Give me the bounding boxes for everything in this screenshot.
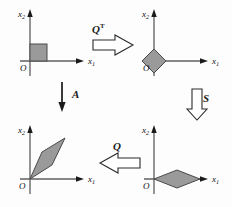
x-axis-arrowhead <box>76 58 84 63</box>
scaled-flat-rhombus-shape <box>154 170 200 188</box>
arrow-q-label: Q <box>113 140 121 152</box>
x2-axis-label: x2 <box>141 9 149 20</box>
arrow-a-label: A <box>72 88 79 100</box>
sheared-parallelogram-shape <box>30 138 65 179</box>
x1-axis-label: x1 <box>87 56 95 67</box>
x-axis-arrowhead <box>76 176 84 181</box>
y-axis-arrowhead <box>151 125 156 133</box>
y-axis-arrowhead <box>27 125 32 133</box>
x1-axis-label: x1 <box>211 56 219 67</box>
x2-axis-label: x2 <box>17 125 25 136</box>
origin-label: O <box>19 181 26 191</box>
x2-axis-label: x2 <box>17 9 25 20</box>
origin-label: O <box>143 181 150 191</box>
origin-label: O <box>20 63 27 73</box>
x-axis-arrowhead <box>200 58 208 63</box>
arrow-a-head <box>58 102 65 112</box>
arrow-q-transpose-label: QT <box>92 23 105 35</box>
svd-transformation-figure: x1 x2 O x1 x2 O <box>0 0 232 207</box>
arrow-s-label: S <box>203 92 209 104</box>
arrow-q-transpose <box>91 34 135 56</box>
x1-axis-label: x1 <box>211 174 219 185</box>
x2-axis-label: x2 <box>141 125 149 136</box>
y-axis-arrowhead <box>27 9 32 17</box>
x1-axis-label: x1 <box>87 174 95 185</box>
scaled-rhombus-panel: x1 x2 O <box>130 118 230 203</box>
block-arrow-left-icon <box>100 153 140 173</box>
arrow-q <box>98 152 142 174</box>
parallelogram-panel: x1 x2 O <box>6 118 106 203</box>
arrow-a <box>54 80 72 114</box>
rotated-square-panel: x1 x2 O <box>130 4 230 86</box>
y-axis-arrowhead <box>151 9 156 17</box>
block-arrow-right-icon <box>93 35 133 55</box>
origin-label: O <box>143 63 150 73</box>
unit-square-shape <box>30 44 47 61</box>
